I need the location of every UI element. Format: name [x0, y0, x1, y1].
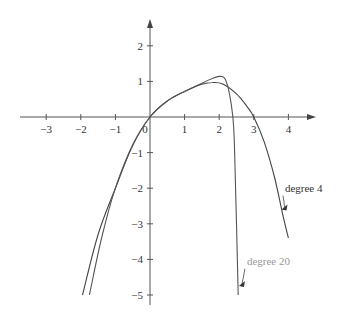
y-tick-label: −2 — [131, 182, 143, 194]
x-axis: −3−2−101234 — [20, 114, 316, 135]
x-tick-label: −3 — [40, 123, 52, 135]
y-axis: 21−1−2−3−4−5 — [131, 19, 153, 305]
y-tick-label: −5 — [131, 289, 143, 301]
x-tick-label: 2 — [216, 123, 222, 135]
x-tick-label: −1 — [110, 123, 122, 135]
x-tick-label: 0 — [142, 123, 148, 135]
x-tick-label: 3 — [251, 123, 257, 135]
x-tick-label: 1 — [182, 123, 188, 135]
x-tick-label: 4 — [286, 123, 292, 135]
y-tick-label: 2 — [138, 40, 144, 52]
annotation-arrow — [283, 196, 285, 208]
series-label: degree 20 — [247, 255, 291, 267]
chart: −3−2−101234 21−1−2−3−4−5 degree 4degree … — [0, 0, 347, 317]
y-tick-label: −4 — [131, 253, 143, 265]
y-tick-label: −3 — [131, 218, 143, 230]
series-line-degree-20 — [89, 76, 238, 295]
arrowhead-icon — [239, 281, 245, 287]
y-tick-label: −1 — [131, 147, 143, 159]
y-tick-label: 1 — [138, 75, 144, 87]
series-label: degree 4 — [285, 182, 323, 194]
y-axis-arrow-icon — [147, 19, 153, 28]
x-tick-label: −2 — [75, 123, 87, 135]
x-axis-arrow-icon — [307, 114, 316, 120]
